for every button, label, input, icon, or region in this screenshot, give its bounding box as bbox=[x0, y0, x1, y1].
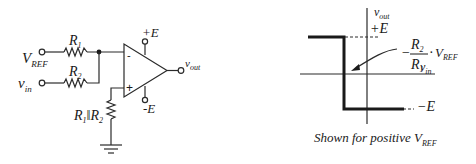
vin-label: vin bbox=[18, 75, 32, 94]
svg-text:−: − bbox=[402, 45, 410, 60]
supply-pos-label: +E bbox=[142, 25, 159, 40]
threshold-numerator: R2 bbox=[410, 37, 424, 54]
vout-label: vout bbox=[185, 57, 201, 72]
threshold-arrow bbox=[356, 49, 397, 68]
arrow-head-icon bbox=[351, 64, 360, 71]
transfer-characteristic-graph: vout +E vin −E − R2 R1 · VREF Shown for … bbox=[300, 5, 458, 148]
vin-terminal bbox=[39, 80, 45, 86]
level-high-label: +E bbox=[370, 21, 388, 36]
svg-text:·: · bbox=[429, 45, 434, 60]
supply-neg-label: -E bbox=[143, 101, 155, 116]
comparator-circuit: VREF R1 vin R2 - + +E -E vout bbox=[18, 25, 201, 153]
transfer-curve bbox=[308, 37, 404, 109]
output-terminal bbox=[178, 68, 184, 74]
noninverting-input-sign: + bbox=[126, 81, 133, 95]
inverting-input-sign: - bbox=[127, 49, 131, 61]
resistor-r1-parallel-r2 bbox=[107, 100, 115, 119]
resistor-r2 bbox=[64, 79, 87, 87]
graph-caption: Shown for positive VREF bbox=[314, 130, 437, 148]
ground-icon bbox=[100, 145, 122, 153]
level-low-label: −E bbox=[417, 99, 435, 114]
vref-terminal bbox=[39, 49, 45, 55]
threshold-vref: VREF bbox=[435, 45, 458, 62]
parallel-resistor-label: R1‖R2 bbox=[73, 108, 103, 125]
resistor-r1 bbox=[64, 48, 87, 56]
vout-axis-label: vout bbox=[374, 5, 390, 21]
r2-label: R2 bbox=[68, 64, 82, 81]
r1-label: R1 bbox=[68, 33, 82, 50]
diagram-canvas: VREF R1 vin R2 - + +E -E vout bbox=[0, 0, 476, 164]
